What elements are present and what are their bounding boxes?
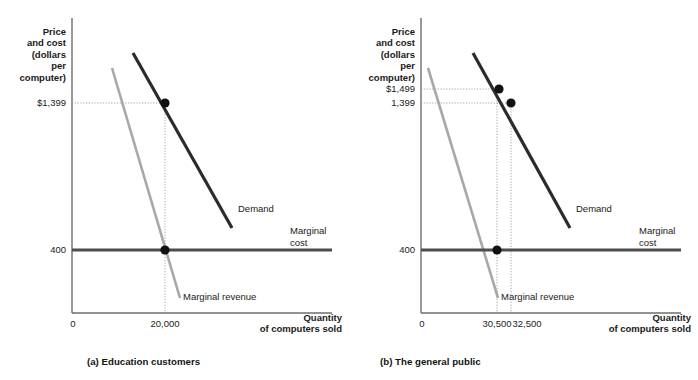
panel-b-caption: (b) The general public bbox=[380, 356, 481, 367]
panel-b-y-tick-price-high: $1,499 bbox=[329, 83, 415, 94]
panel-b-demand-curve bbox=[473, 53, 570, 228]
panel-b-marginal-revenue-curve bbox=[428, 68, 498, 298]
panel-a-x-axis-title: Quantity of computers sold bbox=[230, 312, 342, 335]
panel-b-y-tick-price-low: 1,399 bbox=[329, 97, 415, 108]
panel-a-marginal-revenue-label: Marginal revenue bbox=[183, 291, 256, 302]
panel-b-price-point-high bbox=[494, 84, 503, 93]
panel-a-marginal-revenue-curve bbox=[112, 68, 180, 298]
panel-education-customers: Price and cost (dollars per computer) $1… bbox=[0, 0, 349, 380]
panel-a-caption: (a) Education customers bbox=[87, 356, 200, 367]
panel-b-demand-label: Demand bbox=[576, 203, 612, 214]
economics-figure: Price and cost (dollars per computer) $1… bbox=[0, 0, 698, 380]
panel-b-price-point-low bbox=[506, 98, 515, 107]
panel-a-y-axis-title: Price and cost (dollars per computer) bbox=[0, 26, 66, 83]
panel-b-marginal-cost-label: Marginal cost bbox=[639, 225, 675, 248]
panel-a-y-tick-cost: 400 bbox=[0, 244, 66, 255]
panel-a-mr-mc-point bbox=[160, 245, 169, 254]
panel-a-demand-curve bbox=[133, 53, 232, 228]
panel-a-marginal-cost-label: Marginal cost bbox=[290, 225, 326, 248]
panel-b-mr-mc-point bbox=[492, 245, 501, 254]
panel-b-y-axis-title: Price and cost (dollars per computer) bbox=[329, 26, 415, 83]
panel-b-x-axis-title: Quantity of computers sold bbox=[579, 312, 691, 335]
panel-a-x-tick-origin: 0 bbox=[66, 318, 80, 329]
panel-b-y-tick-cost: 400 bbox=[329, 244, 415, 255]
panel-a-y-tick-price: $1,399 bbox=[0, 97, 66, 108]
panel-a-x-tick-quantity: 20,000 bbox=[138, 318, 192, 329]
panel-a-price-point bbox=[160, 98, 169, 107]
panel-b-x-tick-quantity-high: 32,500 bbox=[500, 318, 554, 329]
panel-b-marginal-revenue-label: Marginal revenue bbox=[501, 291, 574, 302]
panel-general-public: Price and cost (dollars per computer) $1… bbox=[349, 0, 698, 380]
panel-b-x-tick-origin: 0 bbox=[415, 318, 429, 329]
panel-a-demand-label: Demand bbox=[238, 203, 274, 214]
